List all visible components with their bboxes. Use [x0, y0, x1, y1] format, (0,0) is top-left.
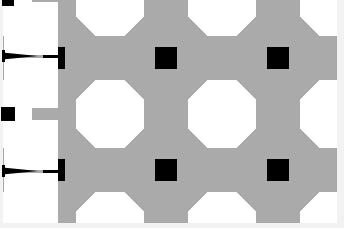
pattern-canvas [0, 0, 344, 228]
pattern-stage: Geometric Circle Tiling Pattern [0, 0, 344, 228]
